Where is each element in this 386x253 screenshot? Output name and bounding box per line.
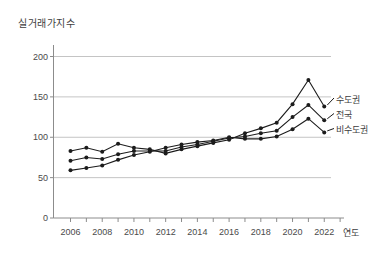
data-point <box>291 115 295 119</box>
data-point <box>132 149 136 153</box>
data-point <box>259 137 263 141</box>
plot-area: 0501001502002006200820102012201420162018… <box>0 0 386 253</box>
y-tick-label: 50 <box>38 173 48 183</box>
data-point <box>116 158 120 162</box>
series-label-nonmetro: 비수도권 <box>336 123 368 136</box>
data-point <box>243 137 247 141</box>
data-point <box>148 150 152 154</box>
x-tick-label: 2012 <box>156 227 176 237</box>
series-label-pointer <box>327 98 334 105</box>
series-label-pointer <box>327 114 334 119</box>
x-tick-label: 2010 <box>124 227 144 237</box>
data-point <box>275 129 279 133</box>
x-tick-label: 2016 <box>219 227 239 237</box>
x-tick-label: 2020 <box>283 227 303 237</box>
data-point <box>306 103 310 107</box>
series-label-pointer <box>327 129 334 131</box>
y-tick-label: 150 <box>33 92 48 102</box>
y-tick-label: 200 <box>33 52 48 62</box>
y-tick-label: 0 <box>43 213 48 223</box>
data-point <box>322 105 326 109</box>
data-point <box>100 164 104 168</box>
data-point <box>227 135 231 139</box>
x-tick-label: 2014 <box>187 227 207 237</box>
data-point <box>100 157 104 161</box>
data-point <box>116 152 120 156</box>
data-point <box>100 150 104 154</box>
x-tick-label: 2018 <box>251 227 271 237</box>
data-point <box>306 78 310 82</box>
data-point <box>84 146 88 150</box>
data-point <box>84 155 88 159</box>
data-point <box>69 159 73 163</box>
chart-title: 실거래가지수 <box>18 15 76 30</box>
series-label-nationwide: 전국 <box>336 108 352 121</box>
data-point <box>275 121 279 125</box>
data-point <box>259 131 263 135</box>
data-point <box>322 130 326 134</box>
x-axis-title: 연도 <box>343 226 359 239</box>
y-tick-label: 100 <box>33 132 48 142</box>
data-point <box>291 102 295 106</box>
data-point <box>84 166 88 170</box>
x-tick-label: 2008 <box>92 227 112 237</box>
data-point <box>132 153 136 157</box>
price-index-line-chart: 0501001502002006200820102012201420162018… <box>0 0 386 253</box>
data-point <box>306 117 310 121</box>
data-point <box>69 149 73 153</box>
data-point <box>164 146 168 150</box>
data-point <box>180 143 184 147</box>
x-tick-label: 2022 <box>314 227 334 237</box>
data-point <box>259 126 263 130</box>
data-point <box>116 142 120 146</box>
data-point <box>275 134 279 138</box>
series-line-1 <box>71 105 325 161</box>
x-tick-label: 2006 <box>60 227 80 237</box>
series-label-metro: 수도권 <box>336 93 360 106</box>
data-point <box>291 127 295 131</box>
data-point <box>195 140 199 144</box>
data-point <box>69 168 73 172</box>
data-point <box>322 118 326 122</box>
data-point <box>211 138 215 142</box>
